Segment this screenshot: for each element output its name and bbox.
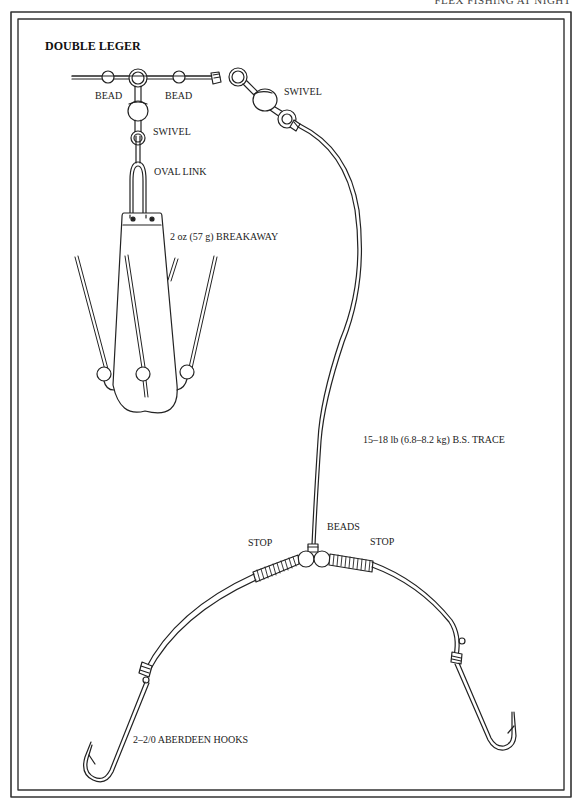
- label-oval-link: OVAL LINK: [154, 166, 207, 177]
- oval-link-icon: [130, 136, 146, 215]
- bead-left-icon: [102, 71, 114, 83]
- junction-bead-left-icon: [298, 551, 314, 567]
- left-snood: [139, 574, 256, 683]
- label-stop-left: STOP: [248, 537, 273, 548]
- diagram-title: DOUBLE LEGER: [45, 39, 141, 53]
- trace-swivel-icon: [211, 68, 300, 131]
- label-hooks: 2–2/0 ABERDEEN HOOKS: [133, 734, 248, 745]
- page-frame: [11, 12, 571, 797]
- trace-line: [298, 124, 361, 545]
- breakaway-weight-icon: [75, 213, 217, 413]
- labels: BEAD BEAD SWIVEL SWIVEL OVAL LINK 2 oz (…: [95, 86, 505, 745]
- label-bead-left: BEAD: [95, 90, 122, 101]
- label-weight: 2 oz (57 g) BREAKAWAY: [170, 231, 278, 243]
- page: FLEX FISHING AT NIGHT DOUBLE LEGER: [0, 0, 581, 807]
- label-swivel-lower: SWIVEL: [153, 126, 191, 137]
- label-stop-right: STOP: [370, 536, 395, 547]
- label-bead-right: BEAD: [165, 90, 192, 101]
- label-trace: 15–18 lb (6.8–8.2 kg) B.S. TRACE: [363, 434, 505, 446]
- label-swivel-upper: SWIVEL: [284, 86, 322, 97]
- double-leger-diagram: DOUBLE LEGER: [0, 0, 581, 807]
- junction-bead-right-icon: [314, 551, 330, 567]
- left-hook-icon: [84, 682, 149, 782]
- label-beads: BEADS: [327, 521, 360, 532]
- right-hook-icon: [455, 663, 516, 750]
- boom-swivel-icon: [72, 69, 218, 145]
- right-snood: [372, 562, 465, 664]
- bead-right-icon: [173, 71, 185, 83]
- junction-icon: [253, 544, 373, 582]
